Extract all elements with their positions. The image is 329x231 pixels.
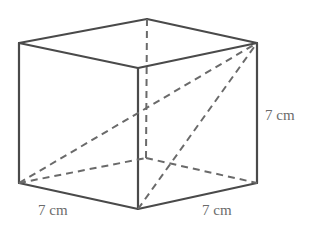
edge-top-left-to-top-front (19, 43, 138, 68)
edge-top-front-to-top-right (138, 43, 257, 68)
hidden-edge-bottom-left-to-bottom-back (19, 158, 146, 183)
hidden-edge-bottom-back-to-bottom-right (146, 158, 257, 183)
label-right-vertical-edge: 7 cm (265, 108, 295, 123)
face-diagonal-right (138, 43, 257, 209)
label-front-left-edge: 7 cm (38, 203, 68, 218)
hidden-edge-back-vertical (146, 19, 147, 158)
edge-top-left-to-top-back (19, 19, 147, 43)
edge-bottom-front-to-bottom-right (138, 183, 257, 209)
label-front-right-edge: 7 cm (202, 203, 232, 218)
edge-bottom-left-to-bottom-front (19, 183, 138, 209)
edge-top-back-to-top-right (147, 19, 257, 43)
